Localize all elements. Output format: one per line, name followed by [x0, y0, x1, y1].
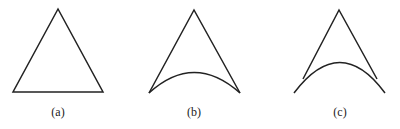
panel-c-label: (c): [333, 105, 346, 120]
panel-c-shape: [294, 10, 385, 93]
panel-b-shape: [149, 10, 240, 93]
panel-a-triangle: [13, 9, 103, 92]
panel-a-label: (a): [51, 105, 64, 120]
panel-b-label: (b): [187, 105, 201, 120]
